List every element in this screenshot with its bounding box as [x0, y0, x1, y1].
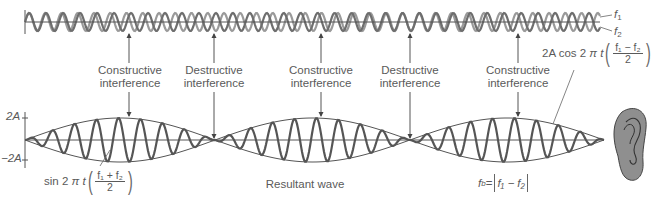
ear-icon: [614, 109, 646, 181]
carrier-formula: sin 2 π t ( f₁ + f₂2 ): [44, 168, 134, 194]
constructive-label-3: Constructiveinterference: [480, 64, 556, 90]
axis-label-neg2A: −2A: [1, 152, 22, 164]
destructive-label-2: Destructiveinterference: [372, 64, 448, 90]
axis-label-2A: 2A: [6, 110, 20, 122]
resultant-wave-label: Resultant wave: [250, 178, 360, 191]
beat-frequency-formula: fb = f₁ − f₂: [478, 174, 530, 192]
f1-label: f1: [614, 8, 622, 22]
f2-label: f2: [614, 25, 622, 39]
constructive-label-1: Constructiveinterference: [92, 64, 168, 90]
destructive-label-1: Destructiveinterference: [176, 64, 252, 90]
top-wave-group: [25, 10, 612, 34]
envelope-formula-leader: [553, 70, 574, 124]
envelope-formula: 2A cos 2 π t ( f₁ − f₂2 ): [542, 40, 652, 66]
f2-leader: [600, 27, 612, 31]
f1-leader: [600, 15, 612, 17]
constructive-label-2: Constructiveinterference: [283, 64, 359, 90]
